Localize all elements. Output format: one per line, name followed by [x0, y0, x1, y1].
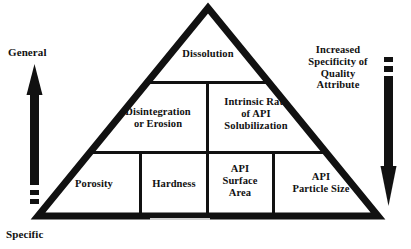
diagram-canvas: Dissolution Disintegration or Erosion In…: [0, 0, 411, 249]
right-arrow-dash-1: [384, 57, 393, 62]
pyramid-diagram: [0, 0, 411, 249]
right-arrow-dash-2: [384, 66, 393, 72]
scan-artifact-baseline: [150, 218, 210, 220]
left-arrow-dash-1: [30, 190, 39, 195]
right-arrow-shaft: [384, 76, 393, 172]
left-arrow-shaft: [30, 89, 39, 185]
left-arrow-dash-2: [30, 199, 39, 204]
